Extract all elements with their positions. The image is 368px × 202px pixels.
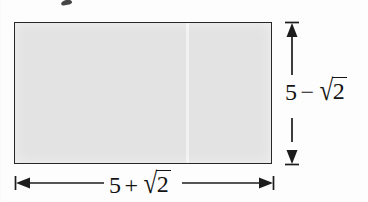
page-fold-artifact	[186, 23, 189, 163]
width-operator: +	[125, 172, 139, 198]
shaded-rectangle	[14, 22, 272, 164]
width-dimension-label: 5+√2	[104, 171, 176, 197]
figure-canvas: 5+√2 5−√2	[0, 0, 368, 202]
height-dimension-label: 5−√2	[283, 75, 349, 107]
scan-ink-mark	[61, 0, 73, 6]
width-radicand: 2	[156, 170, 172, 196]
width-first-term: 5	[109, 172, 122, 198]
height-radicand: 2	[332, 77, 348, 103]
height-radical: √2	[320, 78, 348, 104]
width-radical: √2	[144, 171, 172, 197]
height-first-term: 5	[285, 79, 298, 105]
height-operator: −	[301, 79, 315, 105]
